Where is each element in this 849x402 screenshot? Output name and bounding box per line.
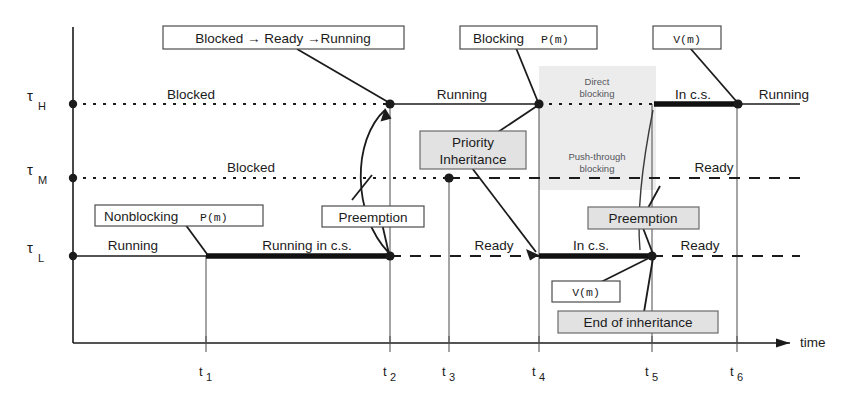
leader-priority-inheritance-arrowhead: [526, 249, 539, 261]
label-tau-m-blocked: Blocked: [227, 160, 275, 175]
tick-label-t2-base: t: [383, 364, 387, 379]
tick-label-t2-sub: 2: [390, 371, 396, 383]
track-axis-labels: τ H τ M τ L: [27, 87, 47, 264]
callout-nonblocking-p[interactable]: Nonblocking P(m): [95, 205, 263, 226]
caption-push-through-line2: blocking: [580, 163, 615, 174]
tau-h-origin-dot: [69, 100, 77, 108]
callout-text-line1: Priority: [452, 135, 494, 150]
tau-m-origin-dot: [69, 174, 77, 182]
leader-blocking-p: [516, 48, 538, 102]
track-tau-m: [69, 173, 800, 182]
tick-label-t4-sub: 4: [539, 371, 545, 383]
time-tick-marks: [206, 336, 737, 352]
caption-push-through-line1: Push-through: [568, 151, 625, 162]
label-tau-l-in-cs: In c.s.: [573, 238, 609, 253]
tau-h-label: τ: [27, 87, 33, 104]
callout-text: V(m): [673, 33, 701, 46]
tick-label-t5-base: t: [645, 364, 649, 379]
caption-direct-blocking-line1: Direct: [585, 76, 610, 87]
tau-l-label: τ: [27, 239, 33, 256]
leader-v-m-bottom: [601, 257, 651, 282]
tick-label-t6-base: t: [730, 364, 734, 379]
time-axis-arrowhead: [776, 338, 790, 347]
tau-l-subscript: L: [38, 252, 44, 264]
tau-l-origin-dot: [69, 252, 77, 260]
callout-blocked-ready-running[interactable]: Blocked → Ready →Running: [163, 26, 404, 49]
label-tau-l-running: Running: [108, 238, 158, 253]
label-tau-h-in-cs: In c.s.: [675, 87, 711, 102]
callout-text-line2: Inheritance: [440, 152, 507, 167]
tau-l-t2-dot: [385, 251, 394, 260]
label-tau-m-ready: Ready: [694, 160, 733, 175]
callout-text: Nonblocking: [104, 209, 178, 224]
label-tau-h-running-1: Running: [437, 87, 487, 102]
label-tau-l-ready-2: Ready: [680, 238, 719, 253]
leader-blocked-ready-running: [297, 49, 388, 102]
caption-direct-blocking-line2: blocking: [580, 88, 615, 99]
tick-label-t6-sub: 6: [737, 371, 743, 383]
tick-label-t1-base: t: [199, 364, 203, 379]
callout-v-m-bottom[interactable]: V(m): [552, 281, 620, 302]
diagram-canvas: τ H τ M τ L t 1 t 2 t 3 t 4 t 5 t 6 time…: [0, 0, 849, 402]
timing-diagram-figure: τ H τ M τ L t 1 t 2 t 3 t 4 t 5 t 6 time…: [0, 0, 849, 402]
callout-text: V(m): [572, 286, 600, 299]
callout-text-mono: P(m): [541, 33, 569, 46]
callout-preemption-left[interactable]: Preemption: [322, 206, 424, 227]
tick-label-t3-base: t: [442, 364, 446, 379]
tau-m-subscript: M: [38, 174, 47, 186]
label-tau-h-blocked: Blocked: [167, 87, 215, 102]
callout-text: End of inheritance: [584, 315, 693, 330]
leader-nonblocking-p: [185, 224, 207, 254]
callout-blocking-p[interactable]: Blocking P(m): [460, 26, 597, 49]
callout-text: Blocking: [473, 31, 524, 46]
tick-label-t3-sub: 3: [449, 371, 455, 383]
tick-label-t5-sub: 5: [652, 371, 658, 383]
callout-text: Preemption: [608, 211, 677, 226]
state-labels: Blocked Running In c.s. Running Blocked …: [108, 87, 809, 253]
tick-label-t4-base: t: [532, 364, 536, 379]
callout-preemption-right[interactable]: Preemption: [588, 207, 699, 229]
tick-label-t1-sub: 1: [206, 371, 212, 383]
callout-v-m-top[interactable]: V(m): [653, 26, 721, 49]
callout-text-mono: P(m): [200, 211, 228, 224]
label-tau-l-ready-1: Ready: [474, 238, 513, 253]
leader-priority-inheritance-up: [498, 106, 537, 132]
callout-priority-inheritance[interactable]: Priority Inheritance: [420, 131, 526, 169]
time-axis-label: time: [800, 335, 826, 350]
label-tau-h-running-2: Running: [759, 87, 809, 102]
callout-end-of-inheritance[interactable]: End of inheritance: [558, 311, 718, 333]
tau-m-t3-dot: [444, 173, 453, 182]
callout-text: Preemption: [338, 210, 407, 225]
label-tau-l-running-in-cs: Running in c.s.: [262, 238, 351, 253]
tau-h-subscript: H: [38, 100, 46, 112]
tau-m-label: τ: [27, 161, 33, 178]
axes: [73, 27, 790, 348]
callout-text: Blocked → Ready →Running: [195, 31, 371, 46]
